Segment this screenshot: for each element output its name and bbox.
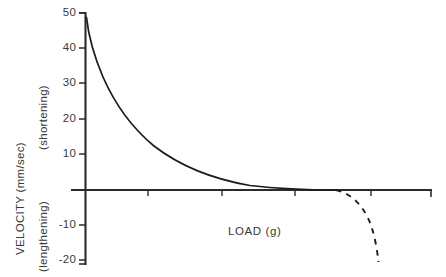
y-tick-label-30: 30 <box>52 76 76 88</box>
x-axis-title: LOAD (g) <box>228 225 281 237</box>
y-tick-label-40: 40 <box>52 41 76 53</box>
series-lengthening-curve <box>336 190 379 262</box>
y-tick-label-10: 10 <box>52 147 76 159</box>
y-axis-title: VELOCITY (mm/sec) <box>14 142 26 255</box>
y-axis-note-lengthening: (lengthening) <box>37 201 49 272</box>
y-tick-label-50: 50 <box>52 6 76 18</box>
force-velocity-chart: 50 40 30 20 10 -10 -20 VELOCITY (mm/sec)… <box>0 0 446 277</box>
y-tick-label-20: 20 <box>52 112 76 124</box>
y-axis-note-shortening: (shortening) <box>37 85 49 150</box>
series-shortening-curve <box>87 18 338 191</box>
